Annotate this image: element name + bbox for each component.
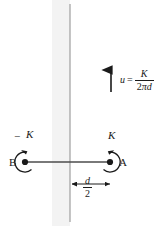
spacing-fraction: d 2 [83, 175, 92, 200]
vortex-b [15, 150, 32, 172]
vortex-b-label: B [9, 157, 16, 168]
spacing-numerator: d [83, 175, 92, 188]
vortex-a-core-dot [107, 159, 113, 165]
equation-numerator: K [135, 68, 154, 81]
vortex-a [104, 150, 121, 172]
vortex-wall-figure: u = K 2πd − K K B A d 2 [0, 0, 167, 226]
spacing-denominator: 2 [83, 188, 92, 200]
vortex-b-core-dot [22, 159, 28, 165]
vortex-a-label: A [119, 157, 127, 168]
vortex-a-strength-label: K [108, 130, 115, 141]
wall-band [52, 0, 70, 226]
equation-denominator-d: d [147, 81, 152, 92]
equation-fraction: K 2πd [135, 68, 154, 93]
spacing-dimension-label: d 2 [83, 175, 92, 200]
equation-variable: u [120, 75, 125, 85]
wall [52, 0, 70, 226]
equation-equals-sign: = [127, 75, 133, 85]
vortex-b-strength-label: K [26, 129, 33, 140]
vortex-b-sign: − [14, 131, 20, 142]
induced-velocity-equation: u = K 2πd [120, 68, 154, 93]
equation-denominator: 2πd [135, 81, 154, 93]
